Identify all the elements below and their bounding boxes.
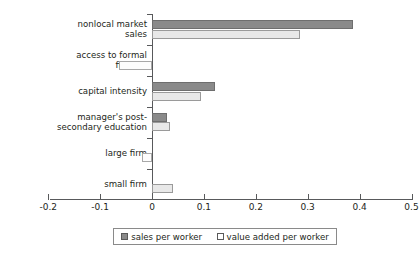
x-axis-tick-label: 0.4 — [340, 202, 380, 212]
x-axis-tick — [100, 194, 101, 200]
x-axis-tick-label: 0.5 — [392, 202, 419, 212]
x-axis-tick-label: -0.1 — [80, 202, 120, 212]
legend-label: value added per worker — [227, 232, 329, 242]
x-axis-tick-label: 0.1 — [184, 202, 224, 212]
x-axis-line — [50, 199, 413, 200]
category-label-2: capital intensity — [27, 86, 147, 96]
chart-legend: sales per workervalue added per worker — [113, 228, 337, 245]
bar-value-added-per-worker-4 — [142, 153, 152, 162]
bar-sales-per-worker-0 — [152, 20, 353, 29]
x-axis-tick — [48, 194, 49, 200]
category-label-0: nonlocal market sales — [27, 19, 147, 39]
bar-sales-per-worker-2 — [152, 82, 215, 91]
category-label-4: large firm — [27, 148, 147, 158]
x-axis-tick — [360, 194, 361, 200]
x-axis-tick-label: 0 — [132, 202, 172, 212]
bar-value-added-per-worker-0 — [152, 30, 300, 39]
y-axis-tick — [147, 45, 152, 46]
chart-plot-area: -0.2-0.100.10.20.30.40.5 nonlocal market… — [0, 8, 419, 258]
y-axis-tick — [147, 76, 152, 77]
x-axis-tick — [152, 194, 153, 200]
legend-entry-0[interactable]: sales per worker — [121, 232, 202, 242]
x-axis-tick — [412, 194, 413, 200]
y-axis-tick — [147, 138, 152, 139]
bar-value-added-per-worker-2 — [152, 92, 201, 101]
x-axis-tick — [308, 194, 309, 200]
zero-axis-line — [152, 14, 153, 200]
bar-value-added-per-worker-1 — [119, 61, 152, 70]
bar-value-added-per-worker-5 — [152, 184, 173, 193]
y-axis-tick — [147, 14, 152, 15]
x-axis-tick-label: 0.3 — [288, 202, 328, 212]
legend-label: sales per worker — [131, 232, 202, 242]
x-axis-tick — [204, 194, 205, 200]
clipped-chart-title — [0, 0, 419, 8]
x-axis-tick — [256, 194, 257, 200]
legend-swatch-icon — [217, 233, 224, 240]
bar-value-added-per-worker-3 — [152, 122, 170, 131]
bar-sales-per-worker-3 — [152, 113, 167, 122]
y-axis-tick — [147, 169, 152, 170]
legend-swatch-icon — [121, 233, 128, 240]
x-axis-tick-label: 0.2 — [236, 202, 276, 212]
y-axis-tick — [147, 107, 152, 108]
category-label-5: small firm — [27, 179, 147, 189]
legend-entry-1[interactable]: value added per worker — [217, 232, 329, 242]
category-label-3: manager's post- secondary education — [27, 112, 147, 132]
x-axis-tick-label: -0.2 — [28, 202, 68, 212]
